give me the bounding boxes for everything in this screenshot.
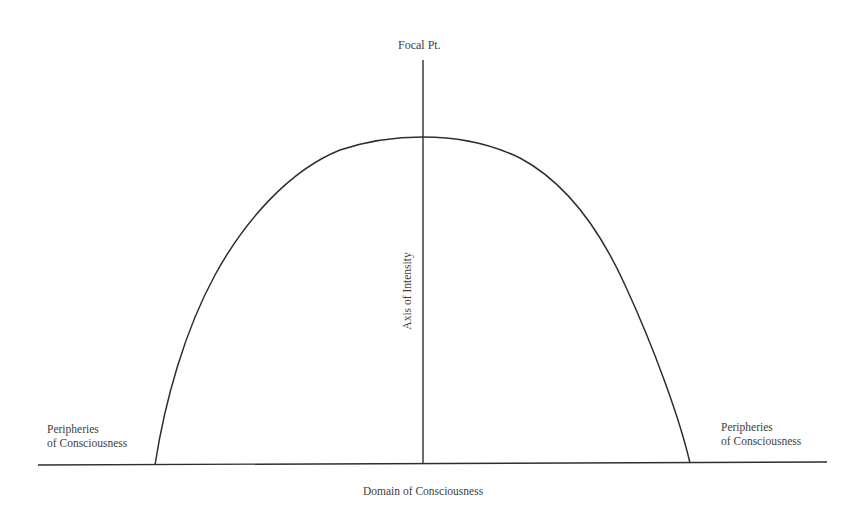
focal-point-label: Focal Pt. (398, 38, 441, 52)
axis-of-intensity-label: Axis of Intensity (400, 252, 414, 329)
domain-of-consciousness-label: Domain of Consciousness (363, 484, 483, 498)
periphery-left-label: Peripheries of Consciousness (47, 422, 127, 450)
periphery-right-label: Peripheries of Consciousness (721, 420, 801, 448)
domain-axis-line (38, 462, 827, 465)
periphery-right-line2: of Consciousness (721, 434, 801, 448)
periphery-left-line2: of Consciousness (47, 436, 127, 450)
periphery-right-line1: Peripheries (721, 420, 801, 434)
consciousness-field-diagram: Focal Pt. Axis of Intensity Peripheries … (0, 0, 867, 507)
periphery-left-line1: Peripheries (47, 422, 127, 436)
